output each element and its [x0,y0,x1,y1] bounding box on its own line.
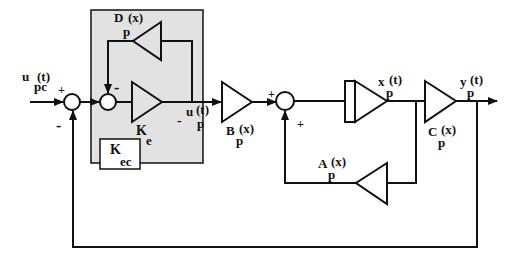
label-d-main: D [114,11,123,24]
label-control-sub: p [197,117,204,130]
label-output-main: y [460,75,467,88]
label-c-sub: p [438,136,445,149]
label-kec-sub: ec [120,155,132,168]
sign-sum2-minus: - [114,80,119,96]
sign-sum1-minus: - [56,118,61,134]
label-a-main: A [318,157,327,170]
label-b-sub: p [236,134,243,147]
sign-sum3-plus-left: + [268,88,275,100]
summing-junction-2 [100,94,116,110]
label-control-main: u [186,105,193,118]
summing-junction-3 [276,92,294,110]
label-ke-sub: e [146,134,152,147]
label-state-sub: p [386,86,393,99]
integrator-block [345,81,355,122]
label-a-sub: p [328,168,335,181]
label-b-main: B [226,124,235,137]
block-a [356,163,387,204]
label-d-arg: (x) [128,11,143,24]
sign-control-minus: - [177,114,182,128]
label-state-main: x [378,75,385,88]
label-input-main: u [22,70,29,83]
block-b [222,82,252,122]
summing-junction-1 [64,94,80,110]
label-c-main: C [428,125,437,138]
sign-sum1-plus: + [58,84,65,96]
label-output-sub: p [467,86,474,99]
label-input-arg: (t) [37,70,50,83]
label-control-arg: (t) [196,103,209,116]
sign-sum3-plus-bottom: + [297,118,304,130]
label-d-sub: p [123,25,130,38]
block-c [425,81,456,122]
